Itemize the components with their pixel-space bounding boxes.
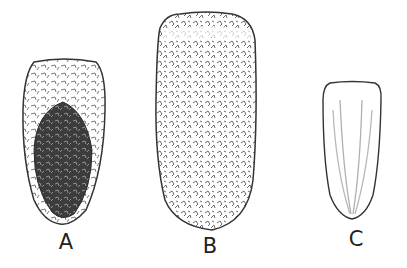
seed-a — [23, 59, 105, 224]
label-c: C — [349, 229, 364, 250]
label-a: A — [59, 232, 73, 253]
label-b: B — [203, 236, 217, 257]
seed-c — [323, 82, 381, 220]
seed-illustration — [0, 0, 407, 268]
seed-b — [156, 12, 256, 230]
